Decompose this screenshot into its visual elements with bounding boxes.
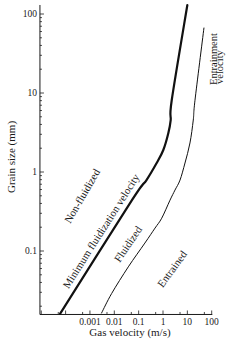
y-tick-label: 10 bbox=[27, 88, 37, 98]
y-tick-label: 0.1 bbox=[25, 246, 37, 256]
y-tick-label: 100 bbox=[23, 9, 38, 19]
y-tick-label: 1 bbox=[32, 167, 37, 177]
x-axis-title: Gas velocity (m/s) bbox=[89, 326, 171, 339]
y-axis-title: Grain size (mm) bbox=[5, 121, 18, 193]
x-tick-label: 100 bbox=[205, 317, 220, 327]
annotation-entrainment-velocity-line2: velocity bbox=[214, 49, 225, 84]
x-tick-label: 10 bbox=[183, 317, 193, 327]
grain-size-vs-gas-velocity-chart: 1001010.10.0010.010.1110100 Grain size (… bbox=[0, 0, 233, 346]
